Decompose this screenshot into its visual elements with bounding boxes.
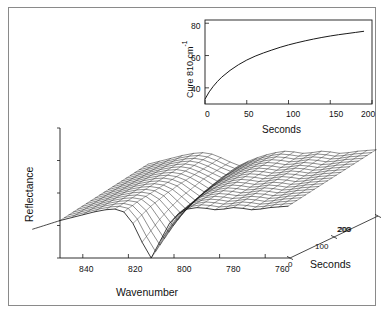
inset-frame — [205, 20, 372, 104]
inset-x-tick-0: 0 — [205, 110, 210, 119]
depth-axis-label: Seconds — [310, 259, 351, 270]
waterfall-rib-22 — [270, 151, 358, 207]
inset-x-tick-100: 100 — [286, 110, 300, 119]
depth-tick-label-200-overlap: 200 209 — [337, 225, 363, 236]
main-x-axis-label: Wavenumber — [116, 287, 178, 298]
waterfall-trace-5 — [82, 192, 310, 226]
inset-y-tick-60: 60 — [191, 54, 200, 63]
depth-tick-label-100: 100 — [315, 243, 328, 251]
x-tick-label-820: 820 — [128, 265, 143, 274]
inset-x-tick-50: 50 — [244, 110, 253, 119]
waterfall-rib-23 — [279, 150, 367, 206]
waterfall-rib-19 — [242, 152, 330, 208]
waterfall-rib-9 — [151, 166, 239, 258]
depth-tick-label-overlap-ghost: 209 — [338, 225, 351, 234]
x-tick-label-800: 800 — [177, 265, 192, 274]
x-tick-label-840: 840 — [79, 265, 94, 274]
depth-tick-label-0: 0 — [288, 261, 292, 269]
waterfall-rib-5 — [115, 153, 203, 209]
inset-x-tick-200: 200 — [361, 110, 375, 119]
waterfall-rib-21 — [261, 153, 349, 209]
waterfall-rib-8 — [142, 162, 230, 242]
waterfall-rib-4 — [106, 153, 194, 209]
inset-y-tick-80: 80 — [191, 22, 200, 31]
inset-x-tick-150: 150 — [329, 110, 343, 119]
inset-cure-curve — [205, 31, 364, 99]
waterfall-rib-17 — [224, 153, 312, 209]
main-y-axis-label: Reflectance — [24, 167, 35, 222]
inset-y-axis-label-superscript: -1 — [181, 41, 188, 47]
x-tick-label-780: 780 — [226, 265, 241, 274]
figure-root: Reflectance 840 820 800 780 760 Wavenumb… — [0, 0, 386, 316]
waterfall-rib-18 — [233, 151, 321, 207]
waterfall-trace-2 — [69, 201, 297, 246]
inset-x-axis-label: Seconds — [262, 125, 301, 135]
waterfall-front-tail — [33, 221, 60, 230]
waterfall-rib-14 — [197, 151, 285, 207]
inset-y-tick-40: 40 — [191, 85, 200, 94]
waterfall-trace-0 — [60, 206, 288, 258]
